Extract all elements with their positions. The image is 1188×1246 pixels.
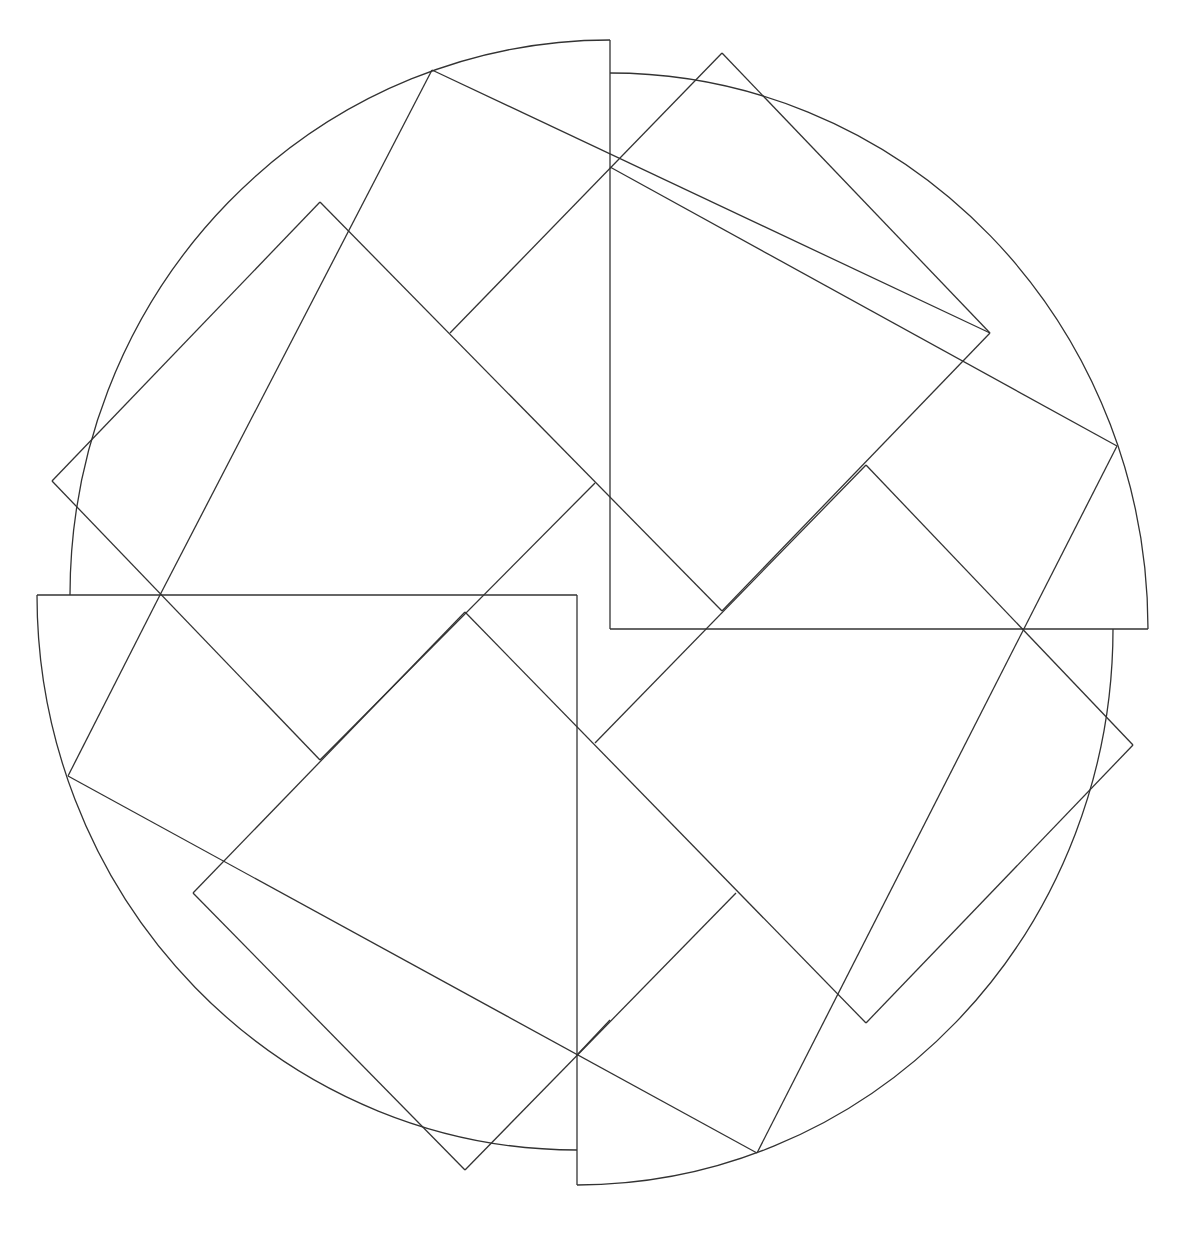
line-segment <box>722 333 990 611</box>
line-segment <box>465 893 736 1170</box>
line-segment <box>577 1020 610 1055</box>
line-segment <box>52 202 320 481</box>
line-segment <box>432 70 990 333</box>
line-segment <box>320 483 595 760</box>
line-segment <box>52 481 320 760</box>
line-segment <box>160 70 432 595</box>
line-segment <box>595 465 866 743</box>
line-segment <box>68 595 160 776</box>
line-segment <box>450 53 722 333</box>
arc-top-right <box>610 73 1148 629</box>
line-segment <box>866 745 1133 1023</box>
line-segment <box>866 465 1133 745</box>
line-segment <box>722 53 990 333</box>
arc-top-left <box>70 40 610 595</box>
line-segment <box>610 167 1117 446</box>
arc-group <box>37 40 1148 1185</box>
line-segment <box>465 612 866 1023</box>
line-group <box>37 40 1148 1185</box>
line-segment <box>757 446 1117 1153</box>
geometric-figure <box>0 0 1188 1246</box>
line-segment <box>320 202 722 611</box>
line-segment <box>193 893 465 1170</box>
line-segment <box>68 776 757 1153</box>
arc-bottom-right <box>577 629 1113 1185</box>
